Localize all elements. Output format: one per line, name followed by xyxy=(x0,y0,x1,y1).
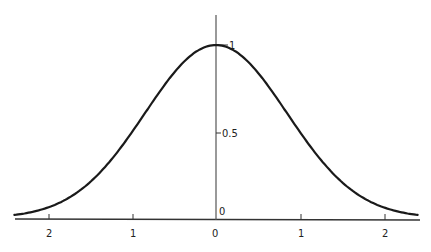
x-tick-label: 2 xyxy=(382,227,388,240)
x-tick-label: 2 xyxy=(46,227,52,240)
y-ticks xyxy=(216,45,228,133)
x-axis xyxy=(15,219,420,220)
bell-curve-chart: 2 1 0 1 2 1 0.5 0 xyxy=(0,0,431,252)
y-tick-label-mid: 0.5 xyxy=(222,127,238,140)
x-tick-label: 0 xyxy=(212,227,218,240)
x-tick-label: 1 xyxy=(298,227,304,240)
y-tick-label-zero: 0 xyxy=(219,205,225,218)
x-tick-label: 1 xyxy=(130,227,136,240)
